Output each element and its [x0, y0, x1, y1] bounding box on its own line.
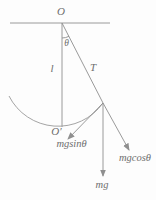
pivot-label: O	[57, 6, 65, 17]
diagram-canvas	[0, 0, 156, 200]
lowest-point-label: O′	[51, 126, 61, 137]
tension-label: T	[90, 62, 96, 73]
length-label: l	[50, 63, 53, 74]
angle-label: θ	[64, 39, 69, 49]
mgcos-theta-label: mgcosθ	[119, 153, 151, 164]
swing-path-arc	[9, 96, 103, 126]
mgsin-theta-label: mgsinθ	[56, 139, 86, 150]
pendulum-string	[62, 23, 103, 103]
mgsin-theta-arrow	[68, 103, 103, 139]
mgcos-theta-arrow	[103, 103, 129, 150]
mg-label: mg	[96, 180, 109, 191]
pendulum-force-diagram: O θ l T O′ mgsinθ mg mgcosθ	[0, 0, 156, 200]
